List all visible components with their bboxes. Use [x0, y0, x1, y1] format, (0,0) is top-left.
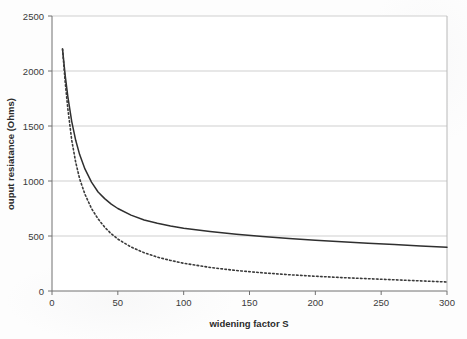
chart-figure: 050100150200250300 05001000150020002500 … — [0, 0, 467, 339]
x-axis-title: widening factor S — [208, 318, 288, 329]
y-axis-title: ouput resiatance (Ohms) — [5, 98, 16, 210]
plot-area — [52, 16, 447, 291]
y-tick-label: 2500 — [23, 11, 44, 22]
y-axis-ticks — [48, 16, 52, 291]
x-tick-label: 200 — [307, 297, 323, 308]
y-tick-label: 2000 — [23, 66, 44, 77]
x-axis-ticks — [52, 291, 447, 295]
x-tick-label: 50 — [113, 297, 124, 308]
y-tick-label: 1000 — [23, 176, 44, 187]
y-tick-label: 0 — [39, 286, 44, 297]
y-tick-label: 500 — [28, 231, 44, 242]
x-tick-label: 100 — [176, 297, 192, 308]
x-tick-label: 250 — [373, 297, 389, 308]
x-tick-label: 0 — [49, 297, 54, 308]
y-axis-tick-labels: 05001000150020002500 — [23, 11, 44, 297]
line-chart: 050100150200250300 05001000150020002500 … — [0, 0, 467, 339]
y-tick-label: 1500 — [23, 121, 44, 132]
x-tick-label: 150 — [242, 297, 258, 308]
x-axis-tick-labels: 050100150200250300 — [49, 297, 455, 308]
x-tick-label: 300 — [439, 297, 455, 308]
